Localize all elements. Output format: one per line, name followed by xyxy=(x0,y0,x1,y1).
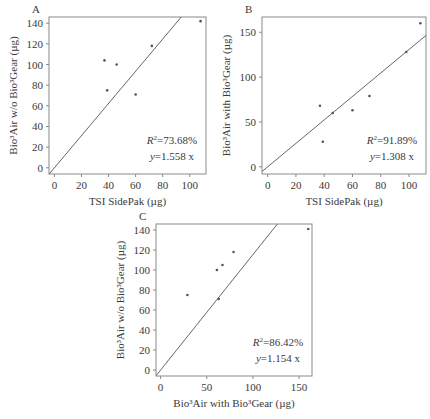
x-axis-label: TSI SidePak (µg) xyxy=(89,195,167,208)
data-point xyxy=(216,269,219,272)
x-tick-label: 0 xyxy=(265,179,271,191)
x-tick-label: 60 xyxy=(347,179,359,191)
y-tick-label: 60 xyxy=(139,304,151,316)
data-point xyxy=(331,112,334,115)
y-tick-label: 80 xyxy=(32,79,44,91)
y-tick-label: 0 xyxy=(38,162,44,174)
x-tick-label: 20 xyxy=(290,179,302,191)
y-tick-label: 140 xyxy=(134,224,151,236)
r-squared-annotation: R2=91.89% xyxy=(366,134,417,146)
data-point xyxy=(307,228,310,231)
data-point xyxy=(321,140,324,143)
data-point xyxy=(351,109,354,112)
y-tick-label: 140 xyxy=(27,17,44,29)
y-axis-label: Bio³Air with Bio³Gear (µg) xyxy=(220,34,233,156)
data-point xyxy=(319,105,322,108)
y-tick-label: 50 xyxy=(245,116,257,128)
equation-annotation: y=1.154 x xyxy=(255,352,301,364)
data-point xyxy=(134,93,137,96)
y-tick-label: 150 xyxy=(240,26,257,38)
y-tick-label: 20 xyxy=(139,344,151,356)
y-tick-label: 120 xyxy=(134,244,151,256)
y-tick-label: 120 xyxy=(27,38,44,50)
data-point xyxy=(151,45,154,48)
data-point xyxy=(199,20,202,23)
chart-panel-b: B050100150020406080100TSI SidePak (µg)Bi… xyxy=(220,3,426,208)
y-tick-label: 100 xyxy=(134,264,151,276)
x-tick-label: 50 xyxy=(201,381,213,393)
data-point xyxy=(405,51,408,54)
y-tick-label: 0 xyxy=(251,161,257,173)
data-point xyxy=(217,298,220,301)
y-axis-label: Bio³Air w/o Bio³Gear (µg) xyxy=(114,241,127,360)
data-point xyxy=(221,264,224,267)
y-tick-label: 100 xyxy=(240,71,257,83)
x-axis-label: Bio³Air with Bio³Gear (µg) xyxy=(173,397,295,410)
x-axis-label: TSI SidePak (µg) xyxy=(305,195,383,208)
x-tick-label: 100 xyxy=(401,179,418,191)
x-tick-label: 80 xyxy=(375,179,387,191)
x-tick-label: 80 xyxy=(157,179,169,191)
y-tick-label: 60 xyxy=(32,100,44,112)
x-tick-label: 40 xyxy=(319,179,331,191)
x-tick-label: 20 xyxy=(76,179,88,191)
y-tick-label: 0 xyxy=(145,364,151,376)
data-point xyxy=(115,63,118,66)
figure-canvas: A020406080100120140020406080100TSI SideP… xyxy=(0,0,430,419)
panel-label: A xyxy=(32,3,40,15)
data-point xyxy=(232,251,235,254)
x-tick-label: 150 xyxy=(291,381,308,393)
x-tick-label: 40 xyxy=(103,179,115,191)
data-point xyxy=(419,22,422,25)
panel-label: C xyxy=(139,210,146,222)
y-tick-label: 20 xyxy=(32,141,44,153)
regression-line xyxy=(49,0,206,174)
data-point xyxy=(368,95,371,98)
r-squared-annotation: R2=73.68% xyxy=(146,134,197,146)
r-squared-annotation: R2=86.42% xyxy=(252,336,303,348)
chart-panel-a: A020406080100120140020406080100TSI SideP… xyxy=(7,0,206,208)
data-point xyxy=(103,59,106,62)
equation-annotation: y=1.558 x xyxy=(149,150,195,162)
equation-annotation: y=1.308 x xyxy=(369,150,415,162)
x-tick-label: 60 xyxy=(130,179,142,191)
y-tick-label: 40 xyxy=(139,324,151,336)
y-tick-label: 40 xyxy=(32,120,44,132)
panel-label: B xyxy=(245,3,252,15)
data-point xyxy=(106,89,109,92)
y-tick-label: 80 xyxy=(139,284,151,296)
x-tick-label: 100 xyxy=(245,381,262,393)
x-tick-label: 100 xyxy=(182,179,199,191)
y-axis-label: Bio³Air w/o Bio³Gear (µg) xyxy=(7,36,20,155)
y-tick-label: 100 xyxy=(27,59,44,71)
data-point xyxy=(186,294,189,297)
x-tick-label: 0 xyxy=(52,179,58,191)
chart-panel-c: C020406080100120140050100150Bio³Air with… xyxy=(114,181,312,410)
x-tick-label: 0 xyxy=(158,381,164,393)
